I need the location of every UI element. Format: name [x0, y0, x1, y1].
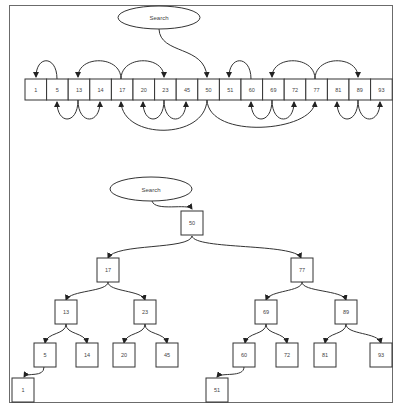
array-cell-value: 89 [357, 87, 363, 93]
tree-node: 69 [255, 300, 277, 324]
tree-node-value: 14 [84, 352, 90, 358]
array-cell: 72 [284, 79, 306, 100]
tree-view: Search [12, 177, 392, 402]
edge-13-5 [45, 324, 66, 343]
array-cell-value: 45 [184, 87, 190, 93]
tree-node-value: 20 [121, 352, 127, 358]
search-to-root-arrow [152, 201, 192, 209]
array-cell: 45 [176, 79, 198, 100]
tree-node-value: 81 [322, 352, 328, 358]
arrow-13-to-5 [57, 100, 78, 119]
edge-77-69 [266, 282, 302, 300]
tree-node: 13 [55, 300, 77, 324]
edge-5-1 [24, 367, 44, 377]
array-cell-value: 20 [141, 87, 147, 93]
edge-50-77 [192, 236, 301, 258]
array-cell: 51 [219, 79, 241, 100]
array-view: Search 15131417202345505160697277818993 [25, 6, 392, 130]
tree-node: 77 [291, 258, 313, 282]
edge-77-89 [302, 282, 346, 300]
tree-node: 23 [134, 300, 156, 324]
diagram-canvas: Search 15131417202345505160697277818993 [0, 0, 401, 415]
tree-node: 45 [156, 343, 178, 367]
array-cell: 23 [155, 79, 177, 100]
arrow-89-to-93 [358, 100, 380, 119]
edge-13-14 [66, 324, 87, 343]
arrow-77-to-69 [272, 61, 315, 79]
arrow-17-to-13 [78, 61, 121, 79]
tree-node: 14 [76, 343, 98, 367]
array-cell: 81 [327, 79, 349, 100]
tree-node-value: 23 [142, 309, 148, 315]
arrow-5-to-1 [36, 61, 57, 79]
tree-node: 60 [233, 343, 255, 367]
tree-node: 89 [335, 300, 357, 324]
tree-node: 5 [34, 343, 56, 367]
array-search-node: Search [118, 6, 200, 29]
edge-69-72 [266, 324, 287, 343]
array-cell-value: 14 [98, 87, 104, 93]
tree-node: 20 [113, 343, 135, 367]
tree-node-value: 13 [63, 309, 69, 315]
arrow-23-to-45 [164, 100, 186, 119]
edge-23-45 [145, 324, 167, 343]
array-cell: 93 [371, 79, 393, 100]
array-cell: 69 [263, 79, 285, 100]
array-cell-value: 77 [314, 87, 320, 93]
array-cell: 1 [25, 79, 47, 100]
array-cell-value: 1 [34, 87, 37, 93]
edge-69-60 [245, 324, 266, 343]
tree-node-value: 69 [263, 309, 269, 315]
arrow-77-to-89 [315, 61, 358, 79]
array-cell-value: 50 [206, 87, 212, 93]
array-arrows-below [57, 100, 380, 130]
tree-search-label: Search [141, 187, 160, 193]
arrow-23-to-20 [143, 100, 164, 119]
array-cells: 15131417202345505160697277818993 [25, 79, 392, 100]
tree-node-value: 5 [43, 352, 46, 358]
array-cell-value: 93 [378, 87, 384, 93]
tree-node-value: 89 [343, 309, 349, 315]
tree-node-value: 17 [105, 267, 111, 273]
array-cell-value: 17 [119, 87, 125, 93]
tree-node: 81 [314, 343, 336, 367]
array-cell: 60 [241, 79, 263, 100]
array-cell-value: 13 [76, 87, 82, 93]
array-cell: 13 [68, 79, 90, 100]
tree-node: 93 [370, 343, 392, 367]
array-cell-value: 60 [249, 87, 255, 93]
array-cell-value: 69 [270, 87, 276, 93]
edge-50-17 [108, 236, 192, 258]
array-cell-value: 5 [56, 87, 59, 93]
tree-search-node: Search [110, 177, 192, 201]
tree-node-value: 93 [378, 352, 384, 358]
array-cell: 50 [198, 79, 220, 100]
tree-nodes: 50177713236989514204560728193151 [12, 211, 392, 402]
arrow-69-to-60 [251, 100, 272, 119]
arrow-50-to-77 [207, 100, 315, 127]
arrow-60-to-51 [229, 61, 251, 79]
array-cell: 89 [349, 79, 371, 100]
tree-node-value: 72 [284, 352, 290, 358]
array-cell: 17 [111, 79, 133, 100]
tree-node: 72 [276, 343, 298, 367]
tree-node: 51 [206, 378, 228, 402]
array-cell-value: 51 [227, 87, 233, 93]
arrow-89-to-81 [337, 100, 358, 119]
edge-23-20 [124, 324, 145, 343]
diagram-svg: Search 15131417202345505160697277818993 [0, 0, 401, 415]
edge-89-93 [346, 324, 381, 343]
tree-node-value: 77 [299, 267, 305, 273]
array-cell: 20 [133, 79, 155, 100]
array-cell-value: 72 [292, 87, 298, 93]
edge-89-81 [325, 324, 346, 343]
edge-17-13 [66, 282, 108, 300]
array-cell-value: 81 [335, 87, 341, 93]
tree-node-value: 60 [241, 352, 247, 358]
arrow-69-to-72 [272, 100, 294, 119]
array-search-label: Search [149, 15, 168, 21]
edge-17-23 [108, 282, 145, 300]
array-cell: 5 [47, 79, 69, 100]
search-to-50-arrow [159, 29, 207, 77]
tree-node-value: 1 [21, 387, 24, 393]
